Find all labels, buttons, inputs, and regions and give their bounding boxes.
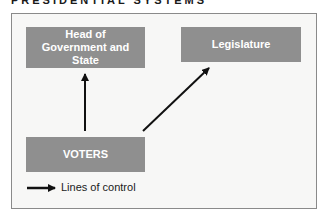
arrow-voters-to-legislature: [143, 68, 209, 131]
control-arrows: [0, 0, 326, 218]
legend-label: Lines of control: [61, 181, 136, 193]
